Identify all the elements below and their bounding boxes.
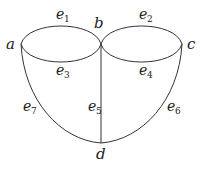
edge-label-e3: e 3 <box>56 62 70 80</box>
edge-label-e2: e 2 <box>139 6 153 24</box>
edge-e1 <box>21 26 101 44</box>
edge-label-e1: e 1 <box>56 6 70 24</box>
svg-text:6: 6 <box>175 106 181 116</box>
svg-text:5: 5 <box>96 106 102 116</box>
vertex-b-label: b <box>94 14 104 32</box>
vertex-d-label: d <box>96 145 106 163</box>
edge-e6 <box>101 44 182 143</box>
svg-text:3: 3 <box>64 70 70 80</box>
svg-text:1: 1 <box>64 14 70 24</box>
edge-e4 <box>101 44 182 62</box>
edge-label-e7: e 7 <box>23 98 37 116</box>
svg-text:7: 7 <box>31 106 37 116</box>
edge-e3 <box>21 44 101 62</box>
vertex-c-label: c <box>187 35 196 53</box>
edge-e7 <box>21 44 101 143</box>
svg-text:2: 2 <box>147 14 153 24</box>
svg-text:4: 4 <box>147 70 153 80</box>
edge-label-e6: e 6 <box>167 98 181 116</box>
edge-label-e5: e 5 <box>88 98 102 116</box>
edge-label-e4: e 4 <box>139 62 153 80</box>
graph-diagram: a b c d e 1 e 2 e 3 e 4 e 5 e 6 e 7 <box>0 0 203 170</box>
edge-e2 <box>101 26 182 44</box>
vertex-a-label: a <box>6 35 15 53</box>
